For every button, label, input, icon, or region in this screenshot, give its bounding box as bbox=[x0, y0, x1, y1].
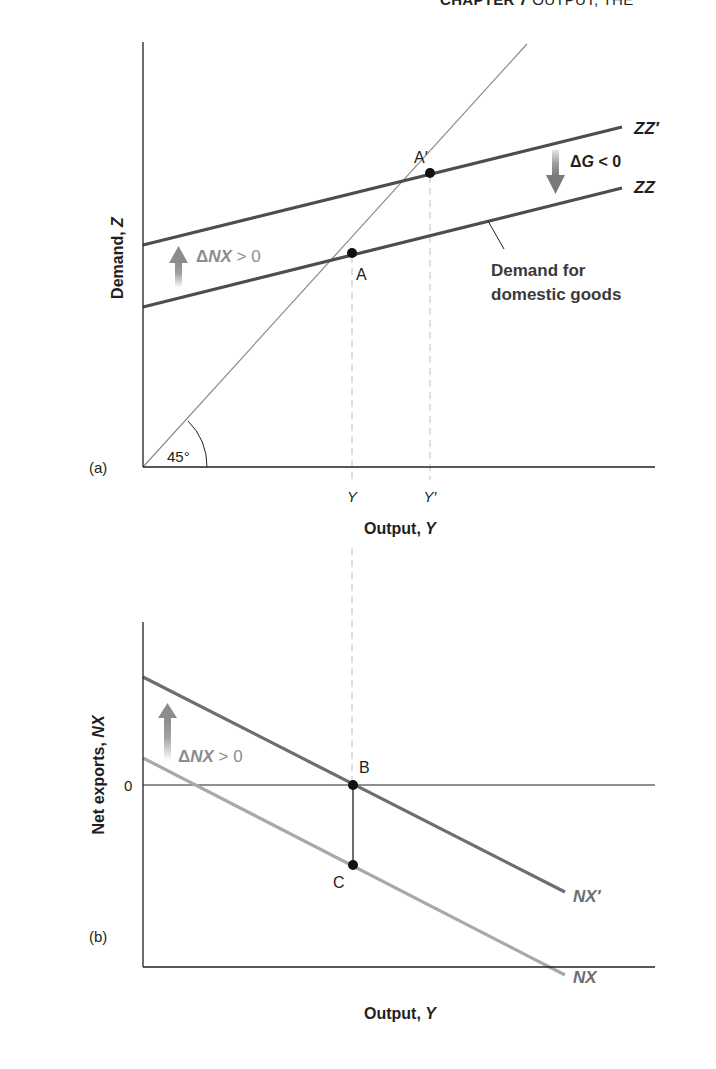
label-delta-nx-a: ΔNX > 0 bbox=[196, 247, 261, 266]
annotation-line-1: Demand for bbox=[491, 261, 586, 280]
label-curve-nx: NX bbox=[573, 968, 598, 987]
point-b bbox=[348, 780, 358, 790]
label-delta-g: ΔG < 0 bbox=[570, 153, 621, 170]
panel-b-tag: (b) bbox=[89, 928, 107, 945]
figure: (a) Demand, Z Output, Y 45° Y Y′ A A′ ZZ… bbox=[0, 0, 716, 1069]
angle-arc bbox=[188, 421, 207, 467]
point-a-prime bbox=[425, 168, 435, 178]
label-point-b: B bbox=[359, 759, 370, 776]
ylabel-a: Demand, Z bbox=[109, 216, 126, 299]
label-curve-zz: ZZ bbox=[633, 178, 655, 197]
xlabel-b: Output, Y bbox=[364, 1005, 437, 1022]
ylabel-b: Net exports, NX bbox=[90, 714, 107, 834]
panel-a-tag: (a) bbox=[89, 459, 107, 476]
label-point-a: A bbox=[356, 266, 367, 283]
panel-a: (a) Demand, Z Output, Y 45° Y Y′ A A′ ZZ… bbox=[89, 42, 660, 783]
zero-tick-label: 0 bbox=[124, 777, 132, 794]
point-a bbox=[347, 248, 357, 258]
arrow-down-icon bbox=[546, 150, 565, 194]
annotation-line-2: domestic goods bbox=[491, 285, 621, 304]
xlabel-a: Output, Y bbox=[364, 520, 437, 537]
label-curve-nx-prime: NX′ bbox=[573, 887, 602, 906]
panel-b: (b) Net exports, NX Output, Y 0 B C NX′ … bbox=[89, 622, 655, 1022]
arrow-up-icon bbox=[158, 703, 177, 761]
angle-label: 45° bbox=[167, 448, 190, 465]
tick-y-prime: Y′ bbox=[424, 488, 438, 505]
curve-zz-prime bbox=[143, 127, 622, 245]
label-curve-zz-prime: ZZ′ bbox=[633, 119, 660, 138]
arrow-up-icon bbox=[169, 246, 188, 288]
label-point-a-prime: A′ bbox=[414, 149, 428, 166]
tick-y: Y bbox=[347, 488, 358, 505]
annotation-leader bbox=[488, 221, 504, 249]
label-point-c: C bbox=[333, 874, 345, 891]
point-c bbox=[348, 860, 358, 870]
label-delta-nx-b: ΔNX > 0 bbox=[178, 747, 243, 766]
